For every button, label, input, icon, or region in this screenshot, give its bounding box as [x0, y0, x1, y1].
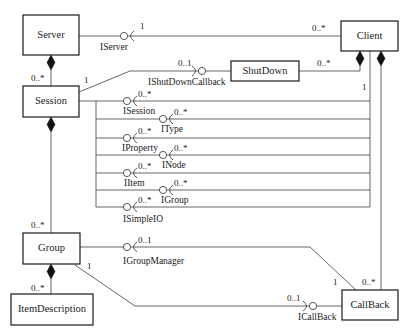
- interface-label-iserver: IServer: [100, 42, 129, 52]
- class-client: Client: [341, 21, 398, 51]
- multiplicity-label: 0..*: [31, 283, 45, 293]
- composition-diamond-icon: [47, 55, 55, 70]
- interface-ball-icon: [159, 115, 166, 122]
- multiplicity-label: 1: [87, 261, 92, 271]
- multiplicity-label: 1: [140, 21, 145, 31]
- interface-ball-icon: [309, 302, 316, 309]
- class-name: CallBack: [350, 299, 390, 310]
- interface-label-ishutdowncallback: IShutDownCallback: [148, 77, 226, 87]
- class-group: Group: [23, 233, 80, 264]
- class-name: Server: [37, 29, 65, 40]
- multiplicity-label: 0..*: [317, 58, 331, 68]
- interface-ball-icon: [159, 186, 166, 193]
- uml-component-diagram: Server Client ShutDown Session Group Ite…: [0, 0, 411, 335]
- multiplicity-label: 0..*: [312, 23, 326, 33]
- interface-label-isimpleio: ISimpleIO: [123, 214, 163, 224]
- interface-ball-icon: [123, 203, 130, 210]
- class-name: Client: [357, 30, 383, 41]
- multiplicity-label: 0..*: [138, 89, 152, 99]
- interface-ball-icon: [123, 134, 130, 141]
- interface-ball-icon: [123, 97, 130, 104]
- class-name: ItemDescription: [18, 303, 87, 314]
- multiplicity-label: 0..*: [138, 195, 152, 205]
- igroupmanager-connector: [80, 247, 356, 290]
- multiplicity-label: 0..1: [138, 235, 152, 245]
- interface-ball-icon: [120, 32, 127, 39]
- multiplicity-label: 1: [84, 75, 89, 85]
- multiplicity-label: 0..*: [174, 107, 188, 117]
- interface-label-itype: IType: [161, 124, 183, 134]
- interface-label-igroupmanager: IGroupManager: [123, 256, 185, 266]
- multiplicity-label: 0..*: [174, 178, 188, 188]
- interface-label-inode: INode: [162, 160, 186, 170]
- class-name: Group: [38, 242, 65, 253]
- composition-diamond-icon: [377, 51, 385, 66]
- interface-label-igroup: IGroup: [161, 195, 189, 205]
- class-callback: CallBack: [342, 290, 398, 320]
- interface-label-iitem: IItem: [124, 178, 145, 188]
- multiplicity-label: 0..1: [287, 293, 301, 303]
- multiplicity-label: 0..*: [138, 126, 152, 136]
- multiplicity-label: 0..*: [31, 220, 45, 230]
- multiplicity-label: 0..1: [178, 58, 192, 68]
- class-name: ShutDown: [243, 65, 289, 76]
- composition-diamond-icon: [47, 117, 55, 132]
- multiplicity-label: 0..*: [362, 277, 376, 287]
- interface-ball-icon: [123, 169, 130, 176]
- composition-diamond-icon: [356, 51, 364, 66]
- interface-label-icallback: ICallBack: [298, 312, 337, 322]
- interface-ball-icon: [123, 243, 130, 250]
- multiplicity-label: 0..*: [31, 73, 45, 83]
- interface-label-iproperty: IProperty: [122, 143, 158, 153]
- composition-diamond-icon: [47, 264, 55, 279]
- multiplicity-label: 1: [362, 82, 367, 92]
- class-session: Session: [23, 86, 79, 117]
- multiplicity-label: 0..*: [138, 161, 152, 171]
- icallback-connector: [75, 265, 342, 306]
- interface-ball-icon: [159, 151, 166, 158]
- class-server: Server: [23, 15, 79, 55]
- interface-label-isession: ISession: [123, 106, 155, 116]
- multiplicity-label: 0..*: [174, 143, 188, 153]
- class-name: Session: [35, 95, 68, 106]
- interface-ball-icon: [198, 67, 205, 74]
- class-shutdown: ShutDown: [231, 61, 299, 81]
- multiplicity-label: 1: [333, 277, 338, 287]
- class-item-description: ItemDescription: [11, 294, 93, 325]
